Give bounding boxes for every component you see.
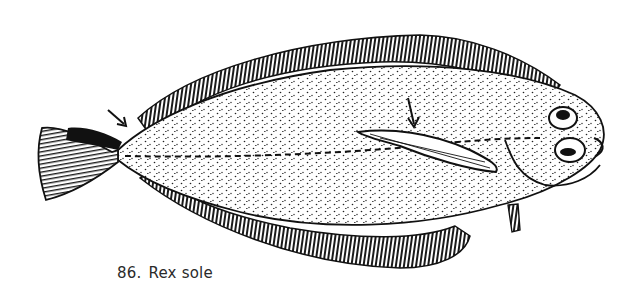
rex-sole-illustration bbox=[0, 0, 636, 307]
arrow-tail-marking bbox=[108, 110, 126, 126]
figure-caption: 86.Rex sole bbox=[117, 264, 213, 282]
pelvic-fin bbox=[508, 204, 520, 232]
upper-eye bbox=[549, 107, 577, 129]
figure-label: Rex sole bbox=[148, 264, 212, 282]
lower-eye bbox=[555, 138, 585, 162]
figure-number: 86. bbox=[117, 264, 141, 282]
